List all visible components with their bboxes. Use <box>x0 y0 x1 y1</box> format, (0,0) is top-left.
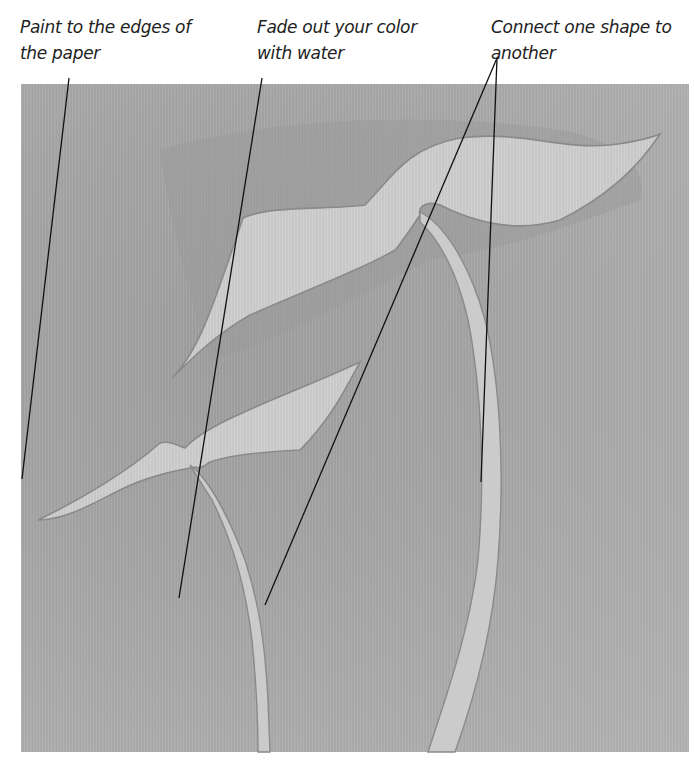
illustration <box>0 0 694 776</box>
leader-line-edges <box>22 78 69 479</box>
right-stem <box>420 212 501 752</box>
left-stem <box>190 465 270 752</box>
